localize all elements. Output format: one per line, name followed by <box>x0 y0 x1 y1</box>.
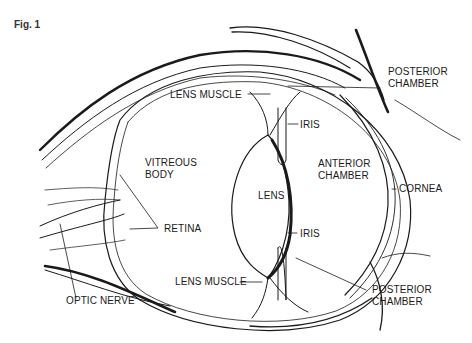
optic-nerve <box>40 200 170 306</box>
label-cornea: CORNEA <box>399 183 442 195</box>
leader-retina <box>120 175 158 229</box>
label-anterior-chamber: ANTERIOR CHAMBER <box>318 158 370 182</box>
lower-eyelid <box>250 262 382 330</box>
label-iris-bottom: IRIS <box>300 228 320 240</box>
label-optic-nerve: OPTIC NERVE <box>66 295 135 307</box>
label-retina: RETINA <box>164 223 201 235</box>
label-lens-muscle-bottom: LENS MUSCLE <box>175 276 247 288</box>
label-vitreous-body: VITREOUS BODY <box>145 157 197 181</box>
leader-posterior-top <box>288 86 380 88</box>
label-lens-muscle-top: LENS MUSCLE <box>170 89 242 101</box>
lens-muscle-bottom <box>252 278 308 318</box>
lens-muscle-top <box>250 92 300 135</box>
label-iris-top: IRIS <box>300 119 320 131</box>
label-posterior-chamber-bottom: POSTERIOR CHAMBER <box>372 284 432 308</box>
upper-eyelid <box>230 27 384 100</box>
cornea-outline <box>340 95 388 295</box>
leader-posterior-bottom <box>296 258 366 290</box>
label-posterior-chamber-top: POSTERIOR CHAMBER <box>388 66 448 90</box>
label-lens: LENS <box>258 190 285 202</box>
leader-optic-nerve <box>60 224 76 298</box>
